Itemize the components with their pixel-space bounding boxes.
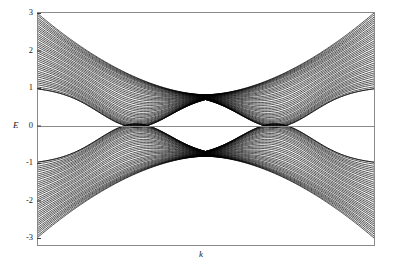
y-tick-label: -2 bbox=[19, 195, 33, 205]
subband-curve bbox=[37, 35, 374, 96]
subband-curve bbox=[37, 13, 374, 95]
subband-curve bbox=[37, 134, 374, 183]
plot-frame bbox=[38, 13, 375, 246]
subband-curve bbox=[37, 135, 374, 184]
subband-curve bbox=[37, 156, 374, 228]
subband-curve bbox=[37, 136, 374, 186]
y-tick-label: -3 bbox=[19, 232, 33, 242]
subband-curves bbox=[37, 13, 374, 238]
subband-curve bbox=[37, 87, 374, 127]
y-axis-label: E bbox=[13, 120, 19, 130]
subband-curve bbox=[37, 23, 374, 95]
y-tick-label: -1 bbox=[19, 157, 33, 167]
subband-curve bbox=[37, 21, 374, 95]
subband-curve bbox=[37, 155, 374, 214]
subband-curve bbox=[37, 65, 374, 115]
x-axis-label: k bbox=[199, 249, 203, 259]
plot-canvas bbox=[0, 0, 393, 275]
subband-curve bbox=[37, 37, 374, 96]
y-tick-label: 0 bbox=[19, 120, 33, 130]
subband-curve bbox=[37, 156, 374, 238]
y-tick-label: 1 bbox=[19, 82, 33, 92]
subband-curve bbox=[37, 124, 374, 164]
axes-frame bbox=[37, 13, 375, 246]
subband-curve bbox=[37, 156, 374, 230]
y-tick-label: 2 bbox=[19, 45, 33, 55]
subband-curve bbox=[37, 67, 374, 116]
subband-curve bbox=[37, 69, 374, 118]
subband-curve bbox=[37, 155, 374, 216]
y-tick-label: 3 bbox=[19, 7, 33, 17]
band-structure-figure: E k 3210-1-2-3 bbox=[0, 0, 393, 275]
